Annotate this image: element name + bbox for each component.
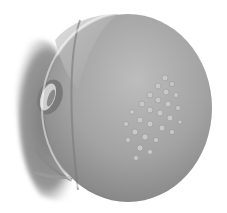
head-illustration bbox=[0, 0, 227, 213]
head bbox=[44, 14, 212, 202]
illustration bbox=[0, 0, 227, 213]
